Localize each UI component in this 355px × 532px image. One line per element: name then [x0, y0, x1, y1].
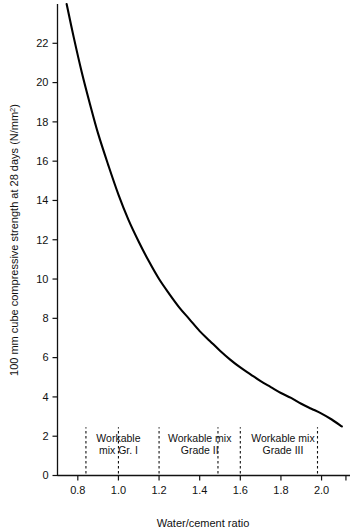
- x-tick-label: 1.8: [273, 484, 288, 496]
- y-tick-label: 4: [42, 391, 48, 403]
- x-tick-label: 1.0: [111, 484, 126, 496]
- annotation-workable-mix-gr-1-line2: mix Gr. I: [99, 444, 138, 456]
- x-axis-title: Water/cement ratio: [157, 517, 250, 529]
- x-tick-label: 0.8: [70, 484, 85, 496]
- annotation-workable-mix-grade-2-line1: Workable mix: [168, 432, 232, 444]
- y-tick-label: 8: [42, 312, 48, 324]
- y-tick-label: 18: [36, 116, 48, 128]
- annotation-workable-mix-gr-1-line1: Workable: [96, 432, 140, 444]
- y-tick-label: 6: [42, 351, 48, 363]
- y-tick-label: 14: [36, 194, 48, 206]
- y-tick-label: 2: [42, 430, 48, 442]
- y-tick-label: 10: [36, 273, 48, 285]
- chart-container: 0246810121416182022 0.81.01.21.41.61.82.…: [0, 0, 355, 532]
- y-axis-title: 100 mm cube compressive strength at 28 d…: [8, 104, 21, 376]
- y-tick-label: 20: [36, 76, 48, 88]
- y-tick-label: 16: [36, 155, 48, 167]
- y-tick-label: 0: [42, 469, 48, 481]
- annotation-workable-mix-grade-3-line2: Grade III: [263, 444, 304, 456]
- x-tick-label: 1.2: [151, 484, 166, 496]
- annotation-labels: Workablemix Gr. IWorkable mixGrade IIWor…: [96, 432, 315, 456]
- y-axis-title-group: 100 mm cube compressive strength at 28 d…: [8, 104, 21, 376]
- x-tick-label: 1.6: [233, 484, 248, 496]
- annotation-workable-mix-grade-3-line1: Workable mix: [251, 432, 315, 444]
- annotation-workable-mix-grade-2-line2: Grade II: [181, 444, 219, 456]
- y-tick-label: 12: [36, 234, 48, 246]
- compressive-strength-chart: 0246810121416182022 0.81.01.21.41.61.82.…: [0, 0, 355, 532]
- x-tick-label: 2.0: [314, 484, 329, 496]
- y-tick-label: 22: [36, 37, 48, 49]
- x-tick-label: 1.4: [192, 484, 207, 496]
